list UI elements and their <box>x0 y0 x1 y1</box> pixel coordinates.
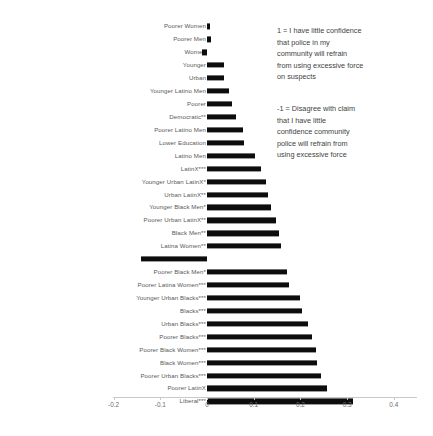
bar-row: Urban LatinX** <box>0 188 433 201</box>
bar-row: Poorer Black Women*** <box>0 343 433 356</box>
bar <box>207 140 244 145</box>
category-label: Poorer LatinX <box>167 385 206 391</box>
bar-row: Black Men** <box>0 227 433 240</box>
x-axis-tick-label: -0.2 <box>108 401 119 408</box>
bar-row: White*** <box>0 253 433 266</box>
x-axis-tick <box>160 397 161 400</box>
bar-row: Urban Blacks*** <box>0 317 433 330</box>
category-label: Urban Blacks*** <box>161 321 206 327</box>
x-axis-tick-label: 0.1 <box>249 401 258 408</box>
bar-row: Blacks*** <box>0 304 433 317</box>
bar <box>207 386 327 391</box>
bar-row: Younger Black Men* <box>0 201 433 214</box>
bar-row: Younger Urban LatinX* <box>0 175 433 188</box>
bar <box>207 270 287 275</box>
category-label: Black Men** <box>172 230 206 236</box>
bar <box>207 231 279 236</box>
category-label: Poorer Latino Men <box>154 127 206 133</box>
category-label: Poorer Urban LatinX** <box>144 217 206 223</box>
bar <box>207 373 321 378</box>
category-label: Lower Education <box>159 140 206 146</box>
bar <box>207 334 312 339</box>
bar <box>207 308 302 313</box>
bar <box>207 101 232 106</box>
category-label: Younger Urban LatinX* <box>142 179 206 185</box>
annotation-negative-pole: -1 = Disagree with claim that I have lit… <box>277 103 432 161</box>
bar <box>207 89 229 94</box>
bar <box>207 179 266 184</box>
bar <box>207 114 236 119</box>
bar-row: Younger Latino Men <box>0 85 433 98</box>
category-label: Poorer Black Men* <box>153 269 206 275</box>
bar <box>207 76 224 81</box>
bar-row: Black Women*** <box>0 356 433 369</box>
bar-row: Poorer Blacks*** <box>0 330 433 343</box>
x-axis-tick <box>114 397 115 400</box>
annotation-positive-pole: 1 = I have little confidence that police… <box>277 25 432 83</box>
category-label: Younger Latino Men <box>150 88 206 94</box>
x-axis-tick-label: 0 <box>205 401 209 408</box>
bar <box>207 63 224 68</box>
x-axis-tick <box>254 397 255 400</box>
category-label: Urban LatinX** <box>164 191 206 197</box>
category-label: LatinX*** <box>181 166 206 172</box>
category-label: Liberal*** <box>180 398 206 404</box>
bar-row: Poorer Black Men* <box>0 266 433 279</box>
bar <box>207 399 353 404</box>
bar <box>207 127 243 132</box>
x-axis-line <box>113 397 417 398</box>
bar-row: Poorer Urban Blacks*** <box>0 369 433 382</box>
bar <box>207 205 271 210</box>
bar <box>207 166 261 171</box>
bar-row: Poorer Latina Women*** <box>0 279 433 292</box>
bar <box>207 282 289 287</box>
bar <box>207 244 281 249</box>
category-label: Poorer Latina Women*** <box>138 282 206 288</box>
bar <box>202 50 207 55</box>
x-axis-tick <box>207 397 208 400</box>
bar <box>207 347 316 352</box>
category-label: Poorer Women <box>164 23 206 29</box>
category-label: Latino Men <box>175 153 206 159</box>
category-label: Younger <box>183 62 206 68</box>
category-label: Black Women*** <box>160 360 206 366</box>
category-label: Poorer Men <box>173 36 206 42</box>
category-label: Younger Black Men* <box>149 204 206 210</box>
bar <box>207 295 300 300</box>
bar-row: Latina Women** <box>0 240 433 253</box>
bar <box>207 360 317 365</box>
bar-row: Younger Urban Blacks*** <box>0 292 433 305</box>
x-axis-tick-label: -0.1 <box>155 401 166 408</box>
bar <box>207 321 308 326</box>
x-axis-tick <box>300 397 301 400</box>
category-label: Poorer Urban Blacks*** <box>140 373 206 379</box>
x-axis-tick-label: 0.2 <box>296 401 305 408</box>
horizontal-bar-chart: Poorer WomenPoorer MenWomenYoungerUrbanY… <box>0 0 433 436</box>
category-label: Poorer Black Women*** <box>139 347 206 353</box>
bar <box>141 257 207 262</box>
category-label: Blacks*** <box>180 308 206 314</box>
x-axis-tick <box>394 397 395 400</box>
x-axis-tick-label: 0.4 <box>389 401 398 408</box>
x-axis-tick <box>347 397 348 400</box>
bar-row: Poorer Urban LatinX** <box>0 214 433 227</box>
bar <box>207 218 276 223</box>
category-label: Poorer <box>187 101 206 107</box>
bar <box>207 192 268 197</box>
bar <box>207 153 255 158</box>
bar <box>207 24 210 29</box>
x-axis-tick-label: 0.3 <box>343 401 352 408</box>
category-label: Urban <box>189 75 206 81</box>
category-label: Latina Women** <box>161 243 206 249</box>
bar-row: Poorer LatinX <box>0 382 433 395</box>
category-label: Poorer Blacks*** <box>159 334 206 340</box>
bar-row: LatinX*** <box>0 162 433 175</box>
category-label: Younger Urban Blacks*** <box>136 295 206 301</box>
bar <box>207 37 211 42</box>
category-label: Democratic** <box>169 114 206 120</box>
